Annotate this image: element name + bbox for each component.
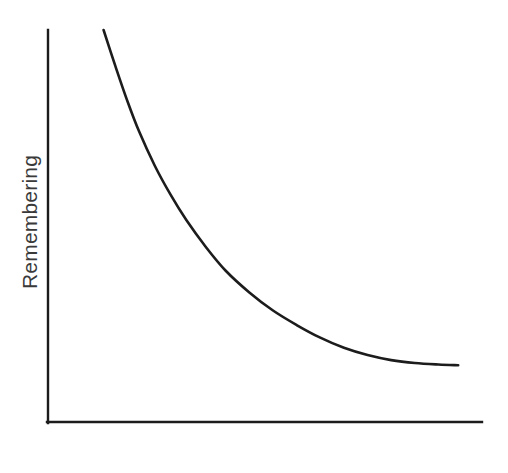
- chart-background: [0, 0, 508, 473]
- forgetting-curve-figure: Remembering Time: [0, 0, 508, 473]
- chart-plot-area: [0, 0, 508, 473]
- y-axis-label: Remembering: [19, 155, 40, 289]
